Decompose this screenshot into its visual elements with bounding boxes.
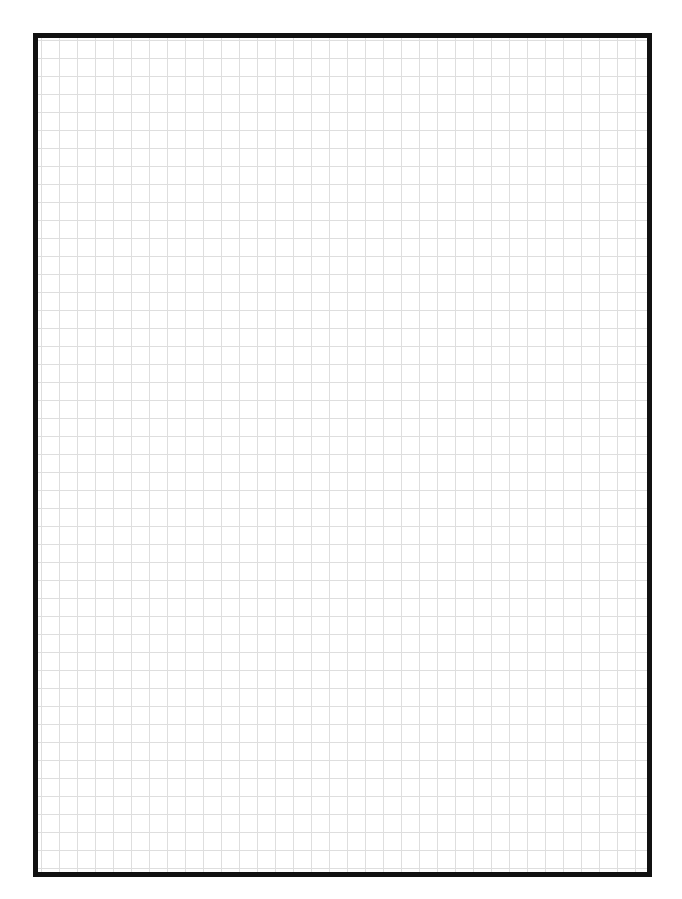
graph-paper-grid: [33, 33, 652, 877]
cropped-header-text: [0, 0, 682, 6]
